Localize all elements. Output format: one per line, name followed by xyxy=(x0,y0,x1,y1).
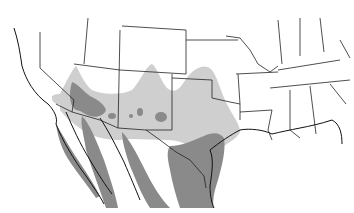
range-map xyxy=(0,0,354,213)
map-canvas xyxy=(0,0,354,213)
